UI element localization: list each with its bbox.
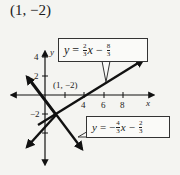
eq2-neg: −: [109, 121, 115, 133]
graph: 4 6 8 x 4 2 −2 y (1, −2): [0, 0, 180, 175]
eq2-frac2: 23: [139, 120, 143, 135]
y-tick-4: 4: [34, 52, 39, 62]
equation-box-1: y = 23 x − 83: [58, 38, 148, 62]
point-label: (1, −2): [53, 80, 78, 90]
eq1-frac1: 23: [83, 43, 87, 58]
y-tick-2: 2: [34, 71, 39, 81]
eq1-y: y: [64, 43, 69, 58]
x-tick-4: 4: [81, 100, 86, 110]
eq1-frac2: 83: [107, 43, 111, 58]
y-tick-minus-2: −2: [30, 109, 40, 119]
eq2-y: y: [92, 121, 97, 133]
eq1-x: x: [88, 43, 93, 58]
y-axis-label: y: [49, 47, 54, 57]
eq2-frac1: 43: [116, 120, 120, 135]
x-tick-6: 6: [101, 100, 106, 110]
eq2-equals: =: [100, 121, 106, 133]
eq1-equals: =: [72, 43, 79, 58]
x-tick-8: 8: [120, 100, 125, 110]
x-axis-label: x: [145, 98, 150, 108]
equation-box-2: y = − 43 x − 23: [86, 116, 170, 138]
eq1-minus: −: [96, 43, 103, 58]
eq2-x: x: [121, 121, 126, 133]
eq2-minus: −: [129, 121, 135, 133]
